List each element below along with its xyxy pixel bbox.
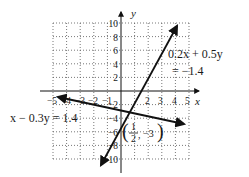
intersection-point-label: ( 1 2 , −3 ) [122,120,164,144]
x-axis-label: x [194,95,200,107]
equation-label-1-line1: 0.2x + 0.5y [168,47,223,61]
svg-text:−3: −3 [143,128,154,139]
svg-text:(: ( [122,120,129,143]
coordinate-plane: x y −5 −4 −3 −2 −1 2 3 4 5 10 8 6 4 2 −2… [0,0,249,177]
equation-label-2: x − 0.3y = 1.4 [10,111,78,125]
svg-text:4: 4 [172,96,177,106]
svg-text:5: 5 [185,96,190,106]
svg-text:2: 2 [113,73,118,83]
svg-text:1: 1 [131,121,136,132]
svg-text:10: 10 [109,19,119,29]
svg-text:2: 2 [145,96,150,106]
svg-text:−5: −5 [47,96,57,106]
equation-label-1-line2: = −1.4 [172,64,204,78]
svg-text:3: 3 [158,96,163,106]
svg-text:2: 2 [131,133,136,144]
svg-text:): ) [157,120,164,143]
x-tick-labels: −5 −4 −3 −2 −1 2 3 4 5 [47,96,190,106]
svg-text:8: 8 [113,33,118,43]
y-axis-label: y [130,7,136,19]
svg-text:6: 6 [113,46,118,56]
svg-text:−4: −4 [108,114,118,124]
svg-text:4: 4 [113,60,118,70]
svg-text:,: , [138,129,141,140]
y-tick-labels: 10 8 6 4 2 −2 −4 −6 −8 −10 [103,19,118,165]
